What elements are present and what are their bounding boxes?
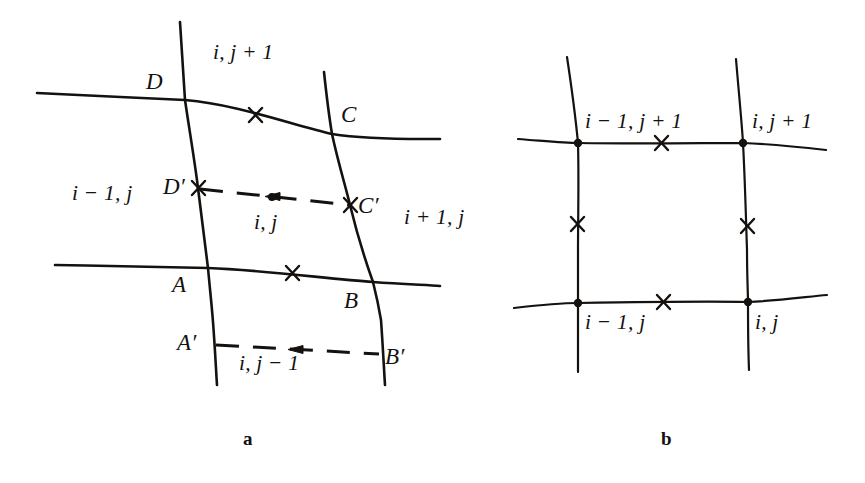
grid-line-top-horizontal — [37, 93, 440, 139]
label-point-A-prime: A′ — [177, 331, 196, 354]
node-dot-b-bottom-right — [744, 298, 752, 306]
grid-line-b-right-vertical — [736, 59, 749, 370]
grid-line-b-top-horizontal — [518, 139, 826, 150]
figure-canvas — [0, 0, 865, 483]
label-point-C-prime: C′ — [358, 194, 379, 217]
figure-root: D C A B D′ C′ A′ B′ i, j + 1 i − 1, j i,… — [0, 0, 865, 483]
label-point-D-prime: D′ — [163, 175, 185, 198]
label-point-C: C — [341, 103, 357, 126]
label-cell-a-north: i, j + 1 — [213, 42, 273, 64]
node-dot-b-bottom-left — [574, 299, 582, 307]
panel-b-grid — [514, 57, 827, 372]
node-dot-b-top-right — [739, 139, 747, 147]
label-cell-a-south: i, j − 1 — [239, 353, 299, 375]
grid-line-b-bottom-horizontal — [514, 295, 827, 308]
label-cell-a-center: i, j — [254, 212, 278, 234]
label-cell-b-bottom-right: i, j — [755, 312, 779, 334]
label-point-B-prime: B′ — [385, 345, 404, 368]
grid-line-b-left-vertical — [567, 57, 578, 372]
panel-caption-b: b — [661, 429, 672, 448]
panel-caption-a: a — [243, 429, 253, 448]
label-cell-b-top-right: i, j + 1 — [752, 111, 812, 133]
node-dot-b-top-left — [574, 139, 582, 147]
label-cell-b-bottom-left: i − 1, j — [585, 312, 645, 334]
label-cell-a-east: i + 1, j — [404, 207, 464, 229]
label-point-D: D — [146, 70, 163, 93]
label-cell-b-top-left: i − 1, j + 1 — [585, 111, 682, 133]
label-point-A: A — [172, 273, 186, 296]
panel-b-cross-marks — [571, 136, 754, 309]
cross-mark-b-right-face — [741, 219, 754, 233]
panel-b-node-dots — [574, 139, 752, 307]
label-point-B: B — [344, 289, 358, 312]
grid-line-bottom-horizontal — [55, 265, 440, 286]
label-cell-a-west: i − 1, j — [72, 183, 132, 205]
